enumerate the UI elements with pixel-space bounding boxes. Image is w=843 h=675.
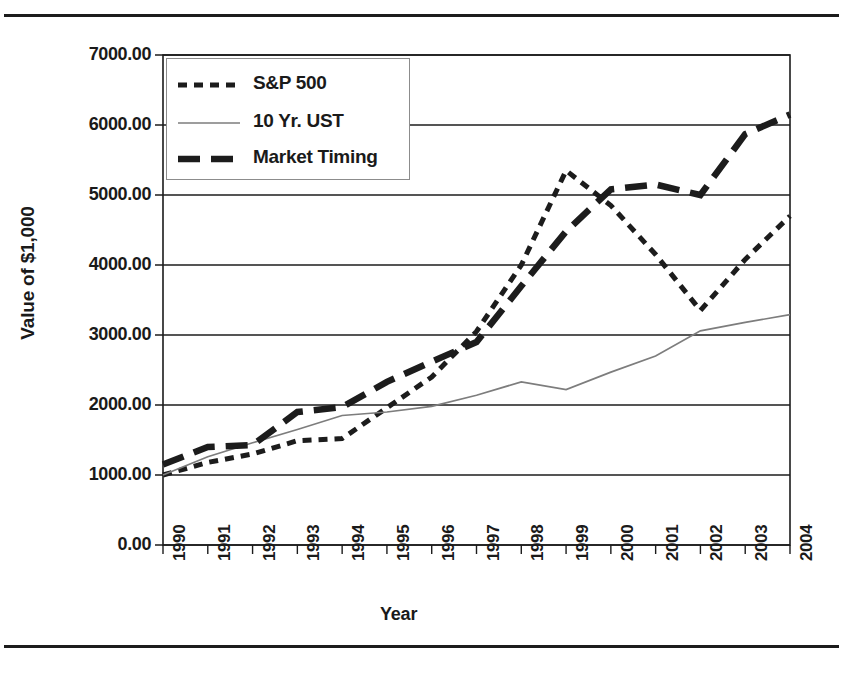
bottom-horizontal-rule xyxy=(4,645,839,648)
chart-plot-region: 0.001000.002000.003000.004000.005000.006… xyxy=(0,30,843,640)
x-tick-label-1997: 1997 xyxy=(484,525,504,561)
y-tick-label-2000: 2000.00 xyxy=(33,395,151,413)
chart-legend: S&P 50010 Yr. USTMarket Timing xyxy=(166,58,410,180)
x-tick-label-1991: 1991 xyxy=(215,525,235,561)
x-axis-title: Year xyxy=(380,604,417,625)
y-tick-label-4000: 4000.00 xyxy=(33,255,151,273)
x-tick-marks-group xyxy=(163,545,790,554)
x-tick-label-2004: 2004 xyxy=(797,525,817,561)
x-tick-label-2002: 2002 xyxy=(707,525,727,561)
legend-label: S&P 500 xyxy=(253,72,327,94)
x-tick-label-1990: 1990 xyxy=(170,525,190,561)
legend-item-market-timing[interactable]: Market Timing xyxy=(177,139,403,175)
legend-label: 10 Yr. UST xyxy=(253,110,344,132)
y-tick-label-1000: 1000.00 xyxy=(33,465,151,483)
figure-container: 0.001000.002000.003000.004000.005000.006… xyxy=(0,0,843,675)
y-tick-label-6000: 6000.00 xyxy=(33,115,151,133)
x-tick-label-1996: 1996 xyxy=(439,525,459,561)
legend-label: Market Timing xyxy=(253,146,378,168)
y-tick-label-5000: 5000.00 xyxy=(33,185,151,203)
y-tick-label-7000: 7000.00 xyxy=(33,45,151,63)
x-tick-label-1993: 1993 xyxy=(304,525,324,561)
x-tick-label-1995: 1995 xyxy=(394,525,414,561)
top-horizontal-rule xyxy=(4,14,839,17)
legend-swatch-icon xyxy=(177,77,241,89)
x-tick-label-1992: 1992 xyxy=(260,525,280,561)
x-tick-label-1998: 1998 xyxy=(528,525,548,561)
y-axis-title: Value of $1,000 xyxy=(17,193,39,353)
x-tick-label-2003: 2003 xyxy=(752,525,772,561)
series-line-s-p-500 xyxy=(163,171,790,476)
legend-item-10-yr-ust[interactable]: 10 Yr. UST xyxy=(177,103,403,139)
x-tick-label-2001: 2001 xyxy=(663,525,683,561)
legend-swatch-icon xyxy=(177,151,241,163)
x-tick-label-1999: 1999 xyxy=(573,525,593,561)
y-tick-label-3000: 3000.00 xyxy=(33,325,151,343)
y-tick-label-0: 0.00 xyxy=(33,535,151,553)
x-tick-label-1994: 1994 xyxy=(349,525,369,561)
legend-swatch-icon xyxy=(177,115,241,127)
legend-item-s-p-500[interactable]: S&P 500 xyxy=(177,65,403,101)
x-tick-label-2000: 2000 xyxy=(618,525,638,561)
